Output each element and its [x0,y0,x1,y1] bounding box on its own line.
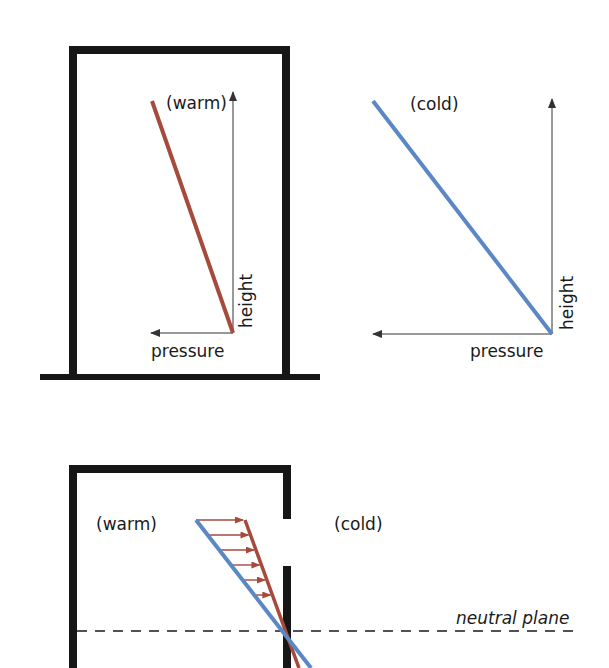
height-axis-label: height [236,273,256,328]
warm-pressure-line [152,101,233,333]
cold-pressure-line [373,101,552,334]
pressure-axis-label: pressure [470,341,543,361]
inside-warm-label: (warm) [96,514,157,534]
outside-cold-label: (cold) [334,514,383,534]
warm-label: (warm) [166,93,227,113]
building-walls-upper [73,469,287,668]
height-axis-label: height [557,275,577,330]
neutral-plane-label: neutral plane [456,608,569,628]
pressure-axis-label: pressure [151,341,224,361]
bottom-building [73,469,287,668]
cold-pressure-graph: (cold) pressure height [373,94,577,361]
cold-label: (cold) [410,94,459,114]
stack-effect-diagram: (warm) pressure height (cold) pressure h… [0,0,609,668]
warm-pressure-graph: (warm) pressure height [151,92,256,361]
